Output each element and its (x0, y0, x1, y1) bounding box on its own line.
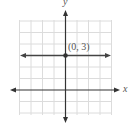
x-axis-label: x (123, 84, 127, 94)
y-axis-down-arrow-icon (63, 117, 68, 123)
coordinate-plane (0, 0, 136, 129)
y-axis-up-arrow-icon (63, 10, 68, 16)
line-left-arrow-icon (20, 53, 26, 58)
x-axis-right-arrow-icon (114, 88, 120, 93)
line-right-arrow-icon (105, 53, 111, 58)
point-label: (0, 3) (68, 42, 90, 52)
x-axis-left-arrow-icon (10, 88, 16, 93)
point-0-3 (63, 53, 68, 58)
y-axis-label: y (63, 0, 67, 7)
